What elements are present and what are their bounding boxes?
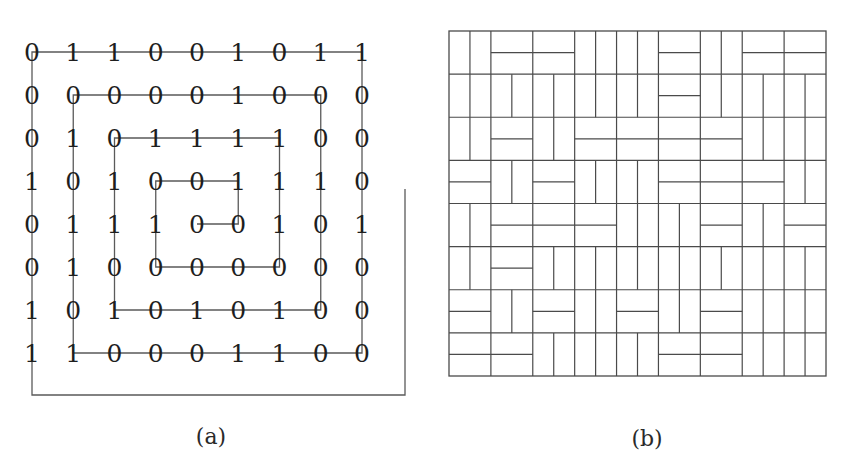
matrix-cell: 1 xyxy=(107,38,123,67)
matrix-cell: 1 xyxy=(65,124,81,153)
digit-grid: 0110010110000010000101111001010011100111… xyxy=(24,38,370,368)
matrix-cell: 0 xyxy=(313,124,329,153)
matrix-cell: 0 xyxy=(148,81,164,110)
matrix-cell: 1 xyxy=(230,124,246,153)
matrix-cell: 1 xyxy=(313,38,329,67)
matrix-cell: 0 xyxy=(24,38,40,67)
matrix-cell: 0 xyxy=(24,210,40,239)
matrix-cell: 0 xyxy=(65,296,81,325)
matrix-cell: 1 xyxy=(189,296,205,325)
matrix-cell: 1 xyxy=(272,296,288,325)
matrix-cell: 0 xyxy=(313,210,329,239)
matrix-cell: 0 xyxy=(107,81,123,110)
matrix-cell: 0 xyxy=(148,253,164,282)
matrix-cell: 0 xyxy=(230,296,246,325)
matrix-cell: 1 xyxy=(107,167,123,196)
matrix-cell: 1 xyxy=(272,124,288,153)
matrix-cell: 1 xyxy=(24,296,40,325)
matrix-cell: 0 xyxy=(272,253,288,282)
matrix-cell: 0 xyxy=(272,81,288,110)
matrix-cell: 1 xyxy=(107,296,123,325)
matrix-cell: 0 xyxy=(148,38,164,67)
matrix-cell: 0 xyxy=(65,167,81,196)
spiral-path xyxy=(32,52,405,395)
matrix-cell: 1 xyxy=(354,210,370,239)
matrix-cell: 1 xyxy=(230,81,246,110)
panel-b-domino-tiling: (b) xyxy=(449,31,826,451)
matrix-cell: 0 xyxy=(354,167,370,196)
matrix-cell: 1 xyxy=(313,167,329,196)
matrix-cell: 0 xyxy=(189,81,205,110)
matrix-cell: 0 xyxy=(24,253,40,282)
matrix-cell: 1 xyxy=(189,124,205,153)
matrix-cell: 0 xyxy=(189,167,205,196)
caption-a: (a) xyxy=(196,424,226,449)
matrix-cell: 1 xyxy=(65,38,81,67)
matrix-cell: 0 xyxy=(24,81,40,110)
matrix-cell: 0 xyxy=(354,253,370,282)
matrix-cell: 1 xyxy=(272,210,288,239)
matrix-cell: 1 xyxy=(230,167,246,196)
panel-a-binary-spiral: 0110010110000010000101111001010011100111… xyxy=(24,38,405,449)
domino-tiling xyxy=(449,31,826,376)
matrix-cell: 0 xyxy=(313,253,329,282)
matrix-cell: 0 xyxy=(189,38,205,67)
matrix-cell: 1 xyxy=(272,167,288,196)
matrix-cell: 1 xyxy=(65,339,81,368)
matrix-cell: 0 xyxy=(272,38,288,67)
matrix-cell: 0 xyxy=(313,296,329,325)
matrix-cell: 1 xyxy=(272,339,288,368)
matrix-cell: 0 xyxy=(189,253,205,282)
matrix-cell: 0 xyxy=(107,253,123,282)
matrix-cell: 0 xyxy=(313,81,329,110)
matrix-cell: 0 xyxy=(148,296,164,325)
matrix-cell: 0 xyxy=(107,339,123,368)
matrix-cell: 0 xyxy=(313,339,329,368)
matrix-cell: 1 xyxy=(230,38,246,67)
matrix-cell: 1 xyxy=(24,167,40,196)
matrix-cell: 1 xyxy=(65,210,81,239)
matrix-cell: 0 xyxy=(65,81,81,110)
figure: 0110010110000010000101111001010011100111… xyxy=(0,0,845,474)
matrix-cell: 1 xyxy=(148,124,164,153)
matrix-cell: 1 xyxy=(230,339,246,368)
matrix-cell: 1 xyxy=(65,253,81,282)
matrix-cell: 0 xyxy=(354,339,370,368)
matrix-cell: 0 xyxy=(230,253,246,282)
matrix-cell: 0 xyxy=(189,210,205,239)
matrix-cell: 0 xyxy=(148,167,164,196)
matrix-cell: 0 xyxy=(24,124,40,153)
matrix-cell: 0 xyxy=(107,124,123,153)
matrix-cell: 1 xyxy=(24,339,40,368)
matrix-cell: 0 xyxy=(354,81,370,110)
caption-b: (b) xyxy=(631,426,662,451)
matrix-cell: 1 xyxy=(107,210,123,239)
matrix-cell: 0 xyxy=(354,124,370,153)
matrix-cell: 1 xyxy=(148,210,164,239)
matrix-cell: 0 xyxy=(230,210,246,239)
matrix-cell: 0 xyxy=(354,296,370,325)
matrix-cell: 1 xyxy=(354,38,370,67)
matrix-cell: 0 xyxy=(189,339,205,368)
matrix-cell: 0 xyxy=(148,339,164,368)
